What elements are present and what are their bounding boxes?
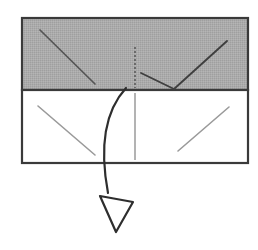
figure-root (0, 0, 258, 250)
paper-fold-diagram (0, 0, 258, 250)
arrow-head-icon (100, 196, 133, 232)
